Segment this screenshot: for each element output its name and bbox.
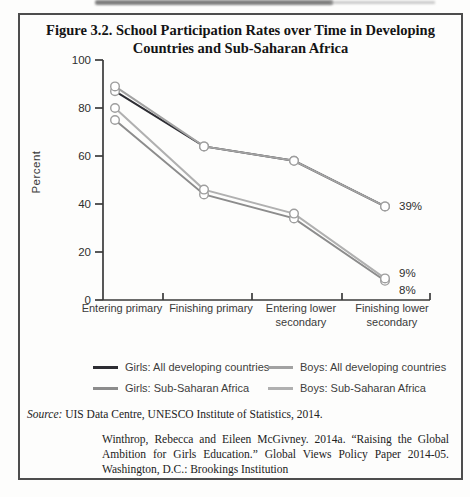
source-label: Source: xyxy=(27,408,62,420)
data-point-marker xyxy=(381,202,390,211)
source-text: UIS Data Centre, UNESCO Institute of Sta… xyxy=(62,408,322,420)
legend-label: Boys: All developing countries xyxy=(300,361,446,373)
data-point-marker xyxy=(111,116,120,125)
data-point-marker xyxy=(381,274,390,283)
x-category-label: secondary xyxy=(276,316,327,328)
legend-line-swatch xyxy=(268,366,293,369)
legend-entry: Boys: Sub-Saharan Africa xyxy=(268,382,426,394)
y-tick-label: 60 xyxy=(78,150,91,162)
page-edge-artifact xyxy=(95,0,333,5)
page: Figure 3.2. School Participation Rates o… xyxy=(0,0,470,497)
chart-svg: 020406080100PercentEntering primaryFinis… xyxy=(20,48,463,360)
legend-line-swatch xyxy=(93,366,118,369)
legend-label: Girls: All developing countries xyxy=(125,361,269,373)
legend-line-swatch xyxy=(268,387,293,390)
data-point-marker xyxy=(200,142,209,151)
figure-box: Figure 3.2. School Participation Rates o… xyxy=(18,13,463,480)
legend-label: Girls: Sub-Saharan Africa xyxy=(125,382,249,394)
legend-label: Boys: Sub-Saharan Africa xyxy=(300,382,426,394)
figure-title-line1: Figure 3.2. School Participation Rates o… xyxy=(20,21,461,39)
source-line: Source: UIS Data Centre, UNESCO Institut… xyxy=(27,408,457,420)
series-line xyxy=(115,91,385,206)
legend-line-swatch xyxy=(93,387,118,390)
data-point-marker xyxy=(200,185,209,194)
legend-entry: Boys: All developing countries xyxy=(268,361,446,373)
x-category-label: secondary xyxy=(367,316,418,328)
data-point-marker xyxy=(290,209,299,218)
data-point-marker xyxy=(111,104,120,113)
y-tick-label: 100 xyxy=(72,54,91,66)
y-tick-label: 20 xyxy=(78,246,91,258)
y-tick-label: 80 xyxy=(78,102,91,114)
x-category-label: Entering primary xyxy=(82,302,163,314)
x-category-label: Entering lower xyxy=(266,302,337,314)
data-point-marker xyxy=(111,82,120,91)
y-tick-label: 40 xyxy=(78,198,91,210)
data-point-marker xyxy=(290,157,299,166)
end-value-label: 8% xyxy=(399,284,416,296)
x-category-label: Finishing lower xyxy=(355,302,429,314)
page-edge-artifact-light xyxy=(330,1,435,4)
x-category-label: Finishing primary xyxy=(169,302,253,314)
legend-entry: Girls: Sub-Saharan Africa xyxy=(93,382,249,394)
legend-entry: Girls: All developing countries xyxy=(93,361,269,373)
end-value-label: 9% xyxy=(399,267,416,279)
end-value-label: 39% xyxy=(399,200,422,212)
citation: Winthrop, Rebecca and Eileen McGivney. 2… xyxy=(102,432,449,477)
y-axis-title: Percent xyxy=(30,150,42,193)
